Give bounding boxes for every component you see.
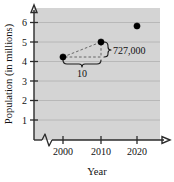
run-brace-label: 10 [77, 68, 87, 79]
y-tick-label-6: 6 [22, 17, 27, 28]
y-tick-label-1: 1 [22, 115, 27, 126]
population-scatter-chart: 6 5 4 3 2 1 2000 2010 2020 10 727,000 [0, 0, 174, 182]
data-point-2020 [134, 23, 140, 29]
y-tick-label-2: 2 [22, 95, 27, 106]
x-tick-label-2010: 2010 [91, 146, 111, 157]
data-point-2010 [98, 39, 104, 45]
x-tick-label-2020: 2020 [127, 146, 147, 157]
y-tick-label-5: 5 [22, 37, 27, 48]
data-point-2000 [60, 54, 66, 60]
y-tick-label-4: 4 [22, 56, 27, 67]
x-axis-title: Year [87, 166, 107, 177]
y-tick-label-3: 3 [22, 76, 27, 87]
x-tick-label-2000: 2000 [53, 146, 73, 157]
y-axis-title: Population (in millions) [3, 23, 15, 124]
rise-brace-label: 727,000 [113, 45, 146, 56]
